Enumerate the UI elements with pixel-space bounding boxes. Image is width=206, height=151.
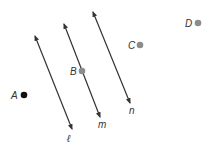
point-C: C xyxy=(128,40,143,51)
line-l-stroke xyxy=(35,36,72,129)
point-D-label: D xyxy=(185,18,192,29)
point-D-dot xyxy=(195,20,202,27)
line-n: n xyxy=(93,12,135,116)
point-A-label: A xyxy=(10,90,18,101)
line-n-stroke xyxy=(93,12,130,103)
point-B-dot xyxy=(79,68,86,75)
line-n-label: n xyxy=(129,105,135,116)
point-B-label: B xyxy=(70,66,77,77)
point-A-dot xyxy=(21,92,28,99)
point-D: D xyxy=(185,18,201,29)
line-l: ℓ xyxy=(35,36,72,144)
point-B: B xyxy=(70,66,85,77)
geometry-diagram: ℓmn ABCD xyxy=(0,0,206,151)
parallel-lines: ℓmn xyxy=(35,12,135,144)
point-C-label: C xyxy=(128,40,136,51)
points: ABCD xyxy=(10,18,201,101)
line-m: m xyxy=(64,24,106,130)
line-m-label: m xyxy=(98,119,106,130)
line-l-label: ℓ xyxy=(66,133,71,144)
point-A: A xyxy=(10,90,27,101)
point-C-dot xyxy=(137,42,144,49)
